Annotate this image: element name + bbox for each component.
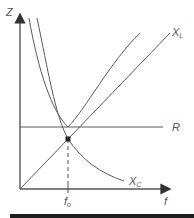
z-axis-label-text: Z (6, 6, 13, 18)
xc-label-sub: C (136, 181, 141, 188)
xl-line (20, 33, 170, 189)
xc-curve (37, 18, 124, 181)
z-curve (29, 18, 140, 127)
r-label: R (172, 122, 180, 133)
xc-label: XC (129, 176, 141, 188)
fo-label: fo (64, 196, 71, 208)
z-axis-label: Z (6, 7, 13, 18)
resonance-point (66, 137, 71, 142)
impedance-diagram (0, 0, 194, 218)
f-axis-label-text: f (164, 195, 167, 207)
f-axis-label: f (164, 196, 167, 207)
r-label-text: R (172, 121, 180, 133)
fo-label-sub: o (67, 201, 71, 208)
xl-label: XL (172, 27, 183, 39)
bottom-rule (10, 214, 194, 218)
xl-label-sub: L (179, 32, 183, 39)
